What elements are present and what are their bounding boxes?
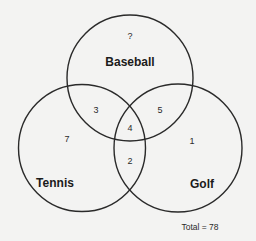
baseball-tennis-value: 3: [93, 105, 98, 115]
tennis-golf-value: 2: [127, 156, 132, 166]
golf-only-value: 1: [189, 136, 194, 146]
baseball-golf-value: 5: [157, 105, 162, 115]
tennis-circle: [19, 85, 146, 212]
golf-circle: [114, 84, 242, 212]
baseball-label: Baseball: [105, 55, 154, 69]
all-three-value: 4: [127, 123, 132, 133]
total-label: Total = 78: [181, 222, 218, 232]
golf-label: Golf: [190, 177, 214, 191]
tennis-only-value: 7: [64, 134, 69, 144]
baseball-only-value: ?: [127, 31, 132, 41]
tennis-label: Tennis: [36, 176, 74, 190]
